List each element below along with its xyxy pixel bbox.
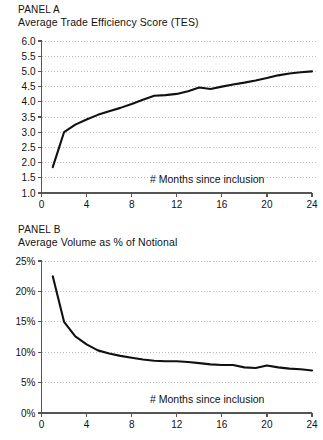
x-axis-note: # Months since inclusion	[150, 393, 265, 405]
y-tick-label: 2.0	[22, 157, 36, 168]
y-tick-label: 6.0	[22, 36, 36, 47]
y-tick-label: 0%	[21, 408, 36, 419]
y-tick-label: 15%	[15, 316, 35, 327]
x-tick-label: 20	[261, 199, 273, 210]
x-tick-label: 24	[306, 199, 318, 210]
y-tick-label: 5%	[21, 377, 36, 388]
panel-a-plot: 1.01.52.02.53.03.54.04.55.05.56.00481216…	[0, 0, 323, 220]
y-tick-label: 4.5	[22, 81, 36, 92]
data-line	[53, 71, 312, 167]
x-axis-note: # Months since inclusion	[150, 173, 265, 185]
x-tick-label: 12	[171, 419, 183, 430]
y-tick-label: 1.0	[22, 188, 36, 199]
x-tick-label: 16	[216, 199, 228, 210]
panel-b-plot: 0%5%10%15%20%25%04812162024# Months sinc…	[0, 220, 323, 440]
x-tick-label: 0	[39, 199, 45, 210]
y-tick-label: 5.5	[22, 51, 36, 62]
x-tick-label: 4	[84, 419, 90, 430]
y-tick-label: 4.0	[22, 96, 36, 107]
y-tick-label: 25%	[15, 256, 35, 267]
x-tick-label: 20	[261, 419, 273, 430]
x-tick-label: 8	[129, 199, 135, 210]
y-tick-label: 10%	[15, 347, 35, 358]
y-tick-label: 3.5	[22, 112, 36, 123]
x-tick-label: 0	[39, 419, 45, 430]
y-tick-label: 20%	[15, 286, 35, 297]
x-tick-label: 8	[129, 419, 135, 430]
x-tick-label: 16	[216, 419, 228, 430]
data-line	[53, 276, 312, 370]
x-tick-label: 12	[171, 199, 183, 210]
y-tick-label: 5.0	[22, 66, 36, 77]
x-tick-label: 24	[306, 419, 318, 430]
figure-two-panel-chart: PANEL A Average Trade Efficiency Score (…	[0, 0, 323, 440]
y-tick-label: 1.5	[22, 172, 36, 183]
panel-b: PANEL B Average Volume as % of Notional …	[0, 220, 323, 440]
y-tick-label: 3.0	[22, 127, 36, 138]
x-tick-label: 4	[84, 199, 90, 210]
y-tick-label: 2.5	[22, 142, 36, 153]
panel-a: PANEL A Average Trade Efficiency Score (…	[0, 0, 323, 220]
